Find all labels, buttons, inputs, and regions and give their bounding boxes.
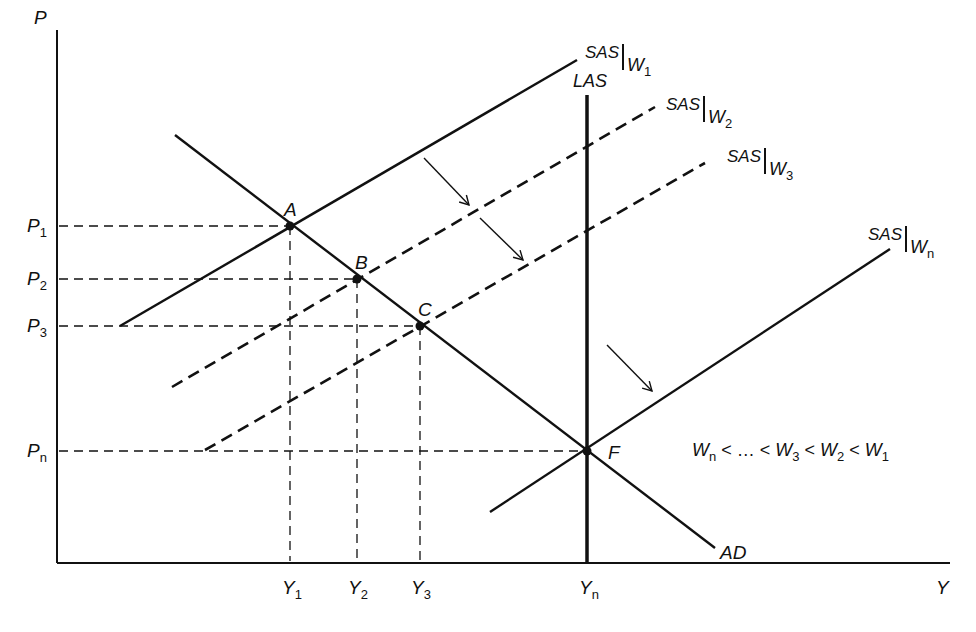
shift-arrow-1-icon — [424, 158, 469, 205]
label-y2: Y2 — [348, 578, 368, 601]
sas-w1-sub: 1 — [644, 64, 651, 79]
shift-arrow-3-icon — [607, 345, 652, 391]
p2-name: P — [27, 268, 40, 289]
price-guides — [59, 226, 587, 451]
y-axis-label: P — [34, 8, 47, 27]
sas-w1-w-letter: W — [627, 55, 644, 75]
p3-name: P — [27, 315, 40, 336]
sas-wn-sub: n — [927, 246, 934, 261]
ineq-sep-1: < … < — [716, 440, 775, 460]
y3-sub: 3 — [424, 587, 431, 602]
point-a-label: A — [284, 200, 297, 219]
sas-wn-main: SAS — [868, 226, 902, 243]
ineq-w-3: W — [775, 440, 792, 460]
ineq-sub-3: 3 — [792, 449, 799, 464]
sas-w3-w: W3 — [769, 160, 793, 182]
sas-wn-label: SASWn — [868, 226, 934, 260]
y1-sub: 1 — [295, 587, 302, 602]
point-f-dot — [583, 447, 592, 456]
point-b-label: B — [355, 253, 368, 272]
sas-wn-w: Wn — [910, 238, 934, 260]
evaluation-bar — [905, 226, 907, 252]
ad-label: AD — [720, 543, 746, 562]
label-y1: Y1 — [282, 578, 302, 601]
as-ad-diagram — [0, 0, 976, 632]
sas-w2-curve — [172, 107, 655, 387]
evaluation-bar — [622, 44, 624, 70]
y3-name: Y — [411, 577, 424, 598]
point-c-dot — [416, 322, 425, 331]
pn-sub: n — [40, 450, 47, 465]
sas-w3-sub: 3 — [786, 168, 793, 183]
sas-w2-w-letter: W — [708, 107, 725, 127]
y2-sub: 2 — [361, 587, 368, 602]
pn-name: P — [27, 440, 40, 461]
ineq-w-2: W — [820, 440, 837, 460]
yn-sub: n — [592, 587, 599, 602]
sas-wn-curve — [490, 249, 890, 512]
ineq-sep-2: < — [800, 440, 821, 460]
evaluation-bar — [703, 96, 705, 122]
sas-w3-w-letter: W — [769, 159, 786, 179]
yn-name: Y — [579, 577, 592, 598]
ineq-w-1: W — [865, 440, 882, 460]
ad-curve — [175, 135, 715, 548]
label-p2: P2 — [27, 269, 47, 292]
y-axis-label-text: P — [34, 7, 47, 28]
label-y3: Y3 — [411, 578, 431, 601]
ineq-sub-1: 1 — [882, 449, 889, 464]
ineq-sep-3: < — [844, 440, 865, 460]
point-f-label: F — [608, 443, 620, 462]
label-p3: P3 — [27, 316, 47, 339]
sas-w1-main: SAS — [585, 44, 619, 61]
label-p1: P1 — [27, 216, 47, 239]
sas-w2-label: SASW2 — [666, 96, 732, 130]
p1-name: P — [27, 215, 40, 236]
point-a-dot — [286, 222, 295, 231]
x-axis-label: Y — [936, 578, 949, 597]
sas-w3-label: SASW3 — [727, 148, 793, 182]
p2-sub: 2 — [40, 278, 47, 293]
sas-w2-w: W2 — [708, 108, 732, 130]
shift-arrow-2-icon — [480, 218, 523, 260]
point-c-label: C — [418, 300, 432, 319]
sas-w3-curve — [205, 163, 705, 450]
sas-wn-w-letter: W — [910, 237, 927, 257]
sas-w3-main: SAS — [727, 148, 761, 165]
wage-inequality: Wn < … < W3 < W2 < W1 — [692, 441, 889, 463]
y2-name: Y — [348, 577, 361, 598]
ineq-w-n: W — [692, 440, 709, 460]
y1-name: Y — [282, 577, 295, 598]
sas-w1-label: SASW1 — [585, 44, 651, 78]
point-b-dot — [353, 275, 362, 284]
sas-w1-w: W1 — [627, 56, 651, 78]
p1-sub: 1 — [40, 225, 47, 240]
evaluation-bar — [764, 148, 766, 174]
p3-sub: 3 — [40, 325, 47, 340]
sas-w2-sub: 2 — [725, 116, 732, 131]
x-axis-label-text: Y — [936, 577, 949, 598]
label-pn: Pn — [27, 441, 47, 464]
label-yn: Yn — [579, 578, 599, 601]
sas-w2-main: SAS — [666, 96, 700, 113]
